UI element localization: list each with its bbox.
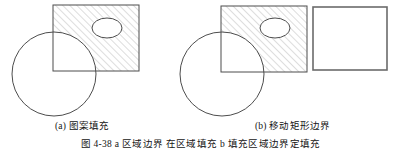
panel-a-hatch-fill [53,5,139,71]
panel-b-hatch-fill [221,6,307,72]
figure-container: (a) 图案填充 (b) 移动矩形边界 图 4-38 a 区域边界 在区域填充 … [0,0,401,151]
figure-illustration [0,0,401,151]
panel-b-moved-boundary-rectangle [313,7,387,70]
